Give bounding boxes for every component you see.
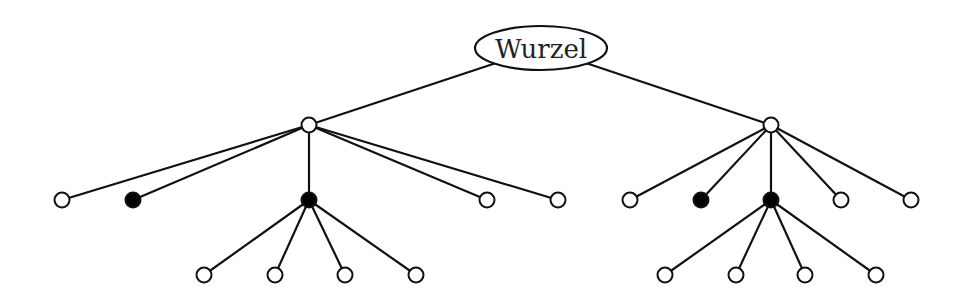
- open-node-L3b: [268, 268, 283, 283]
- root-node: Wurzel: [475, 26, 607, 70]
- open-node-L1: [55, 193, 70, 208]
- open-node-R3c: [798, 268, 813, 283]
- edge-R-R5: [771, 125, 911, 200]
- tree-diagram: Wurzel: [0, 0, 966, 307]
- open-node-L3c: [338, 268, 353, 283]
- edge-R-R2: [701, 125, 771, 200]
- edge-L-L5: [309, 125, 558, 200]
- open-node-L5: [551, 193, 566, 208]
- edge-L3-L3d: [309, 200, 416, 275]
- open-node-R3b: [729, 268, 744, 283]
- edge-L-L4: [309, 125, 487, 200]
- edge-L-L2: [133, 125, 309, 200]
- open-node-R1: [623, 193, 638, 208]
- open-node-R5: [904, 193, 919, 208]
- edge-R-R1: [630, 125, 771, 200]
- edge-L3-L3c: [309, 200, 345, 275]
- filled-node-R3: [764, 193, 779, 208]
- edges-layer: [62, 48, 911, 275]
- open-node-R3a: [658, 268, 673, 283]
- open-node-R3d: [869, 268, 884, 283]
- filled-node-R2: [694, 193, 709, 208]
- edge-R3-R3a: [665, 200, 771, 275]
- open-node-L4: [480, 193, 495, 208]
- nodes-layer: [55, 118, 919, 283]
- edge-L3-L3a: [204, 200, 309, 275]
- open-node-R4: [834, 193, 849, 208]
- open-node-L3d: [409, 268, 424, 283]
- edge-R3-R3d: [771, 200, 876, 275]
- open-node-L3a: [197, 268, 212, 283]
- open-node-L: [302, 118, 317, 133]
- filled-node-L3: [302, 193, 317, 208]
- root-label: Wurzel: [495, 34, 587, 64]
- tree-canvas: Wurzel: [0, 0, 966, 307]
- edge-R-R4: [771, 125, 841, 200]
- open-node-R: [764, 118, 779, 133]
- filled-node-L2: [126, 193, 141, 208]
- edge-L-L1: [62, 125, 309, 200]
